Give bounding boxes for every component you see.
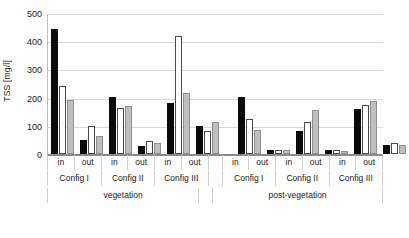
x-phase-label: vegetation xyxy=(47,188,199,203)
section-vegetation-bars xyxy=(48,14,222,154)
x-inout-label: out xyxy=(128,155,155,170)
bar xyxy=(59,86,66,154)
bar xyxy=(138,146,145,154)
x-inout-section: inoutinoutinout xyxy=(47,155,209,170)
bar xyxy=(254,130,261,154)
x-inout-label: out xyxy=(249,155,276,170)
bar-group xyxy=(193,14,222,154)
bar-group xyxy=(235,14,264,154)
x-axis-categories: inoutinoutinoutinoutinoutinout Config IC… xyxy=(47,155,383,217)
x-inout-label: out xyxy=(182,155,209,170)
x-inout-label: out xyxy=(303,155,330,170)
section-gap xyxy=(222,14,235,154)
bar xyxy=(283,150,290,154)
bar-group xyxy=(135,14,164,154)
x-phase-label: post-vegetation xyxy=(212,188,383,203)
y-tick-label: 500 xyxy=(14,9,46,19)
x-config-label: Config III xyxy=(155,171,209,186)
bar xyxy=(362,105,369,154)
x-inout-label: in xyxy=(222,155,250,170)
bar xyxy=(304,122,311,154)
y-tick-label: 0 xyxy=(14,150,46,160)
y-tick-label: 100 xyxy=(14,122,46,132)
bar xyxy=(370,101,377,154)
x-axis-tier-config: Config IConfig IIConfig IIIConfig IConfi… xyxy=(47,171,383,186)
y-axis-tick-labels: 5004003002001000 xyxy=(14,0,46,238)
bar-group xyxy=(106,14,135,154)
bar xyxy=(354,109,361,154)
bar-group xyxy=(380,14,409,154)
bar xyxy=(146,141,153,154)
x-config-section: Config IConfig IIConfig III xyxy=(47,171,209,186)
bar xyxy=(246,119,253,154)
bar xyxy=(204,131,211,154)
y-tick-label: 300 xyxy=(14,65,46,75)
x-config-label: Config II xyxy=(276,171,330,186)
x-config-label: Config I xyxy=(222,171,277,186)
bar xyxy=(167,103,174,154)
bar xyxy=(399,145,406,154)
bar xyxy=(109,97,116,154)
bar xyxy=(333,150,340,155)
bar xyxy=(196,126,203,154)
bar xyxy=(183,93,190,154)
bar xyxy=(275,150,282,154)
bar xyxy=(341,151,348,154)
x-inout-label: in xyxy=(47,155,75,170)
bar-groups xyxy=(48,14,383,154)
bar-group xyxy=(48,14,77,154)
bar xyxy=(154,143,161,154)
bar xyxy=(325,150,332,154)
x-inout-section: inoutinoutinout xyxy=(222,155,384,170)
x-axis-tier-phase: vegetationpost-vegetation xyxy=(47,188,383,203)
bar-group xyxy=(264,14,293,154)
bar xyxy=(117,108,124,154)
bar xyxy=(88,126,95,154)
bar xyxy=(51,29,58,154)
x-inout-label: in xyxy=(276,155,303,170)
bar xyxy=(267,150,274,154)
x-inout-label: in xyxy=(102,155,129,170)
bar-group xyxy=(77,14,106,154)
bar xyxy=(312,110,319,154)
bar xyxy=(212,122,219,154)
x-inout-label: out xyxy=(75,155,102,170)
x-config-label: Config I xyxy=(47,171,102,186)
bar-group xyxy=(322,14,351,154)
x-config-label: Config III xyxy=(330,171,384,186)
x-inout-label: out xyxy=(356,155,383,170)
x-phase-section: vegetation xyxy=(47,188,199,203)
bar-group xyxy=(164,14,193,154)
bar xyxy=(175,36,182,154)
x-inout-label: in xyxy=(330,155,357,170)
x-inout-label: in xyxy=(155,155,182,170)
y-tick-label: 400 xyxy=(14,37,46,47)
x-config-label: Config II xyxy=(102,171,156,186)
section-post-vegetation-bars xyxy=(235,14,409,154)
bar xyxy=(391,143,398,154)
bar-group xyxy=(293,14,322,154)
bar xyxy=(80,140,87,154)
y-tick-label: 200 xyxy=(14,94,46,104)
bar xyxy=(296,131,303,154)
x-config-section: Config IConfig IIConfig III xyxy=(222,171,384,186)
bar xyxy=(96,136,103,154)
x-phase-section: post-vegetation xyxy=(212,188,383,203)
bar xyxy=(125,106,132,155)
plot-area xyxy=(47,14,383,155)
bar-group xyxy=(351,14,380,154)
bar xyxy=(67,100,74,154)
bar xyxy=(383,145,390,154)
bar xyxy=(238,97,245,154)
x-axis-tier-inout: inoutinoutinoutinoutinoutinout xyxy=(47,155,383,170)
